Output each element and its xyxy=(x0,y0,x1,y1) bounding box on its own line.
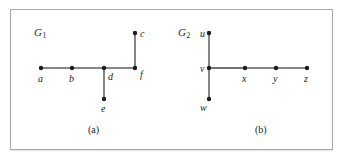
graph-vertex-a xyxy=(39,66,43,70)
graph-vertex-e xyxy=(102,97,106,101)
graph-label-g2-subscript: 2 xyxy=(186,31,190,40)
graph-vertex-z xyxy=(305,66,309,70)
vertex-label-c: c xyxy=(140,29,144,39)
vertex-label-f: f xyxy=(140,70,143,80)
graph-label-g2-letter: G xyxy=(178,26,186,38)
figure-root: G1 G2 (a) (b) abdfceuvwxyz xyxy=(0,0,344,162)
caption-a: (a) xyxy=(88,124,99,135)
vertex-label-v: v xyxy=(200,64,204,74)
graph-vertex-d xyxy=(102,66,106,70)
graph-vertex-v xyxy=(207,66,211,70)
graph-vertex-y xyxy=(274,66,278,70)
vertex-label-a: a xyxy=(38,74,43,84)
vertices-layer xyxy=(39,31,309,101)
graph-vertex-w xyxy=(207,97,211,101)
caption-b: (b) xyxy=(255,124,267,135)
graph-label-g1-subscript: 1 xyxy=(42,31,46,40)
graph-drawing-canvas xyxy=(0,0,344,162)
vertex-label-x: x xyxy=(242,74,246,84)
vertex-label-d: d xyxy=(108,72,113,82)
vertex-label-u: u xyxy=(200,29,205,39)
graph-vertex-b xyxy=(70,66,74,70)
graph-vertex-u xyxy=(207,31,211,35)
graph-vertex-f xyxy=(133,66,137,70)
graph-label-g2: G2 xyxy=(178,26,190,38)
vertex-label-b: b xyxy=(69,74,74,84)
vertex-label-y: y xyxy=(273,74,277,84)
graph-vertex-x xyxy=(243,66,247,70)
vertex-label-w: w xyxy=(200,103,207,113)
vertex-label-e: e xyxy=(101,104,105,114)
vertex-label-z: z xyxy=(304,74,308,84)
graph-label-g1-letter: G xyxy=(34,26,42,38)
edges-layer xyxy=(41,33,307,99)
graph-vertex-c xyxy=(133,31,137,35)
graph-label-g1: G1 xyxy=(34,26,46,38)
